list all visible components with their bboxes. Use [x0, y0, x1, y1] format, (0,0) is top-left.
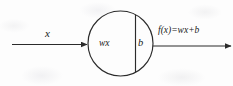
node-label-b: b — [138, 38, 143, 49]
output-label-fx: f(x)=wx+b — [158, 26, 199, 36]
neuron-circle — [88, 11, 153, 76]
figure-canvas: x wx b f(x)=wx+b — [0, 0, 233, 86]
input-label-x: x — [45, 28, 50, 39]
neuron-diagram-svg — [0, 0, 233, 86]
node-label-wx: wx — [99, 39, 110, 49]
